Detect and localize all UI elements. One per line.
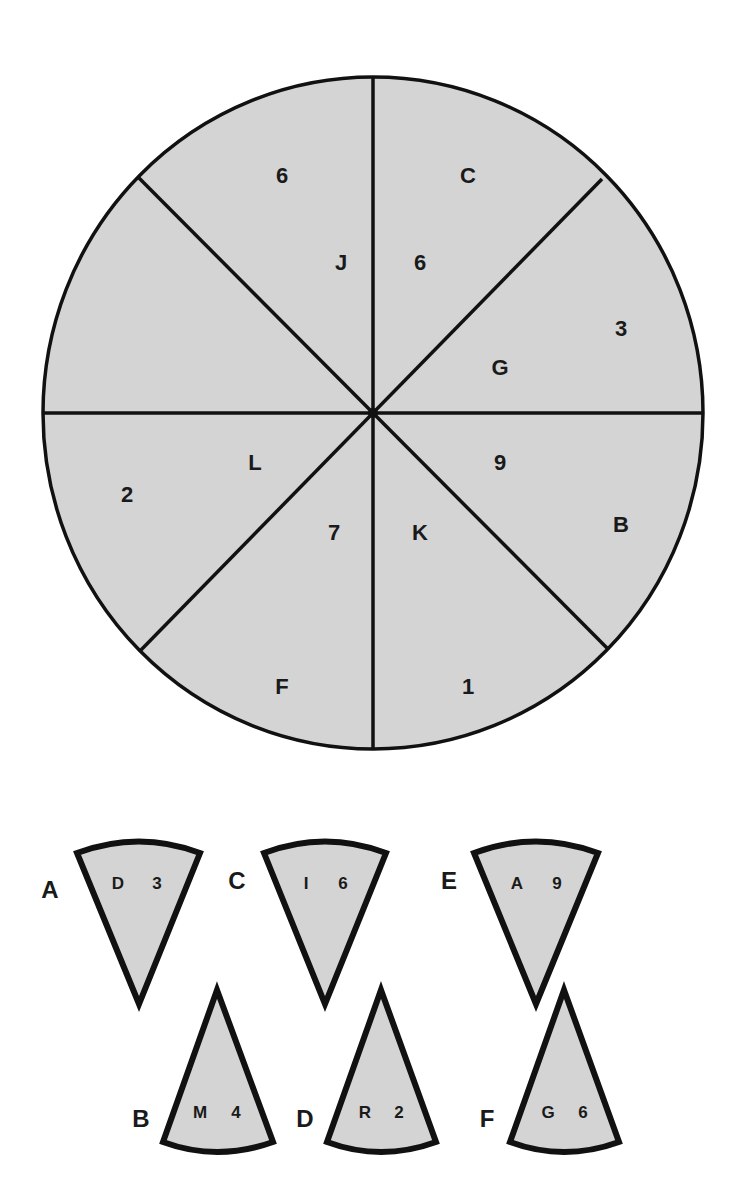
- wedge-number: 6: [338, 874, 347, 893]
- wedge-number: 9: [552, 874, 561, 893]
- segment-outer-label: 1: [462, 674, 474, 699]
- option-label: A: [41, 876, 58, 903]
- wedge-letter: R: [359, 1103, 371, 1122]
- option-label: F: [480, 1105, 495, 1132]
- option-a[interactable]: A D 3: [41, 842, 200, 1005]
- segmented-circle: 6 J C 6 3 G B 9 1 K F 7 2 L: [43, 77, 703, 749]
- wedge-letter: D: [112, 874, 124, 893]
- wedge-letter: G: [541, 1103, 554, 1122]
- option-c[interactable]: C I 6: [228, 842, 386, 1005]
- segment-inner-label: K: [412, 520, 428, 545]
- option-label: E: [441, 867, 457, 894]
- option-b[interactable]: B M 4: [132, 990, 273, 1152]
- segment-outer-label: F: [275, 674, 288, 699]
- segment-inner-label: L: [248, 450, 261, 475]
- wedge-piece: [163, 990, 273, 1152]
- center-point: [368, 408, 378, 418]
- segment-inner-label: G: [491, 355, 508, 380]
- wedge-piece: [327, 990, 436, 1152]
- segment-outer-label: 2: [121, 482, 133, 507]
- wedge-piece: [474, 842, 598, 1005]
- segment-inner-label: 6: [414, 250, 426, 275]
- wedge-number: 4: [231, 1103, 241, 1122]
- segment-inner-label: J: [335, 250, 347, 275]
- option-d[interactable]: D R 2: [296, 990, 436, 1152]
- segment-outer-label: 3: [615, 316, 627, 341]
- segment-inner-label: 9: [494, 450, 506, 475]
- wedge-letter: A: [511, 874, 523, 893]
- puzzle-canvas: 6 J C 6 3 G B 9 1 K F 7 2 L A D 3 C I 6 …: [0, 0, 743, 1203]
- option-e[interactable]: E A 9: [441, 842, 598, 1005]
- option-f[interactable]: F G 6: [480, 990, 619, 1152]
- segment-outer-label: 6: [276, 163, 288, 188]
- wedge-number: 3: [152, 874, 161, 893]
- option-label: C: [228, 867, 245, 894]
- option-label: D: [296, 1105, 313, 1132]
- option-label: B: [132, 1105, 149, 1132]
- segment-outer-label: B: [613, 512, 629, 537]
- wedge-number: 2: [394, 1103, 403, 1122]
- wedge-letter: M: [193, 1103, 207, 1122]
- segment-inner-label: 7: [328, 520, 340, 545]
- segment-outer-label: C: [460, 163, 476, 188]
- wedge-piece: [264, 842, 386, 1005]
- wedge-letter: I: [304, 874, 309, 893]
- wedge-piece: [77, 842, 200, 1005]
- wedge-number: 6: [578, 1103, 587, 1122]
- wedge-piece: [510, 990, 619, 1152]
